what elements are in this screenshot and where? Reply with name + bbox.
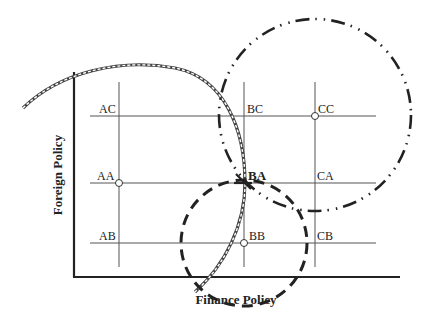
node-label-aa: AA [97,169,115,183]
node-label-ca: CA [317,169,334,183]
node-label-cb: CB [317,229,333,243]
node-label-cc: CC [318,102,334,116]
node-label-bc: BC [247,102,263,116]
y-axis-title: Foreign Policy [50,134,65,215]
node-marker-aa [116,180,123,187]
node-label-bb: BB [249,229,265,243]
policy-diagram: AC BC CC AA BA CA AB BB CB Finance Polic… [0,0,431,324]
x-axis-title: Finance Policy [195,292,277,307]
node-marker-bb [241,240,248,247]
node-label-ab: AB [99,229,116,243]
node-label-ba: BA [248,168,267,183]
node-label-ac: AC [99,102,116,116]
